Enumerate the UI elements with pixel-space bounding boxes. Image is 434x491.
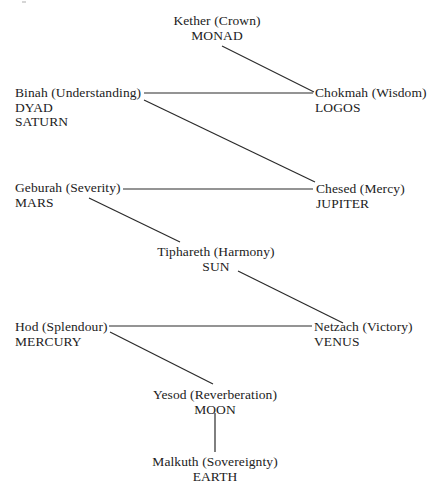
node-kether: Kether (Crown)MONAD — [173, 14, 260, 43]
node-attribute: JUPITER — [316, 197, 405, 212]
node-title: Chokmah (Wisdom) — [315, 86, 427, 101]
node-title: Yesod (Reverberation) — [153, 388, 277, 403]
node-attribute: SATURN — [15, 115, 141, 130]
edge-binah-chesed — [144, 100, 315, 182]
node-attribute: LOGOS — [315, 101, 427, 116]
node-binah: Binah (Understanding)DYADSATURN — [15, 86, 141, 130]
node-title: Netzach (Victory) — [314, 320, 413, 335]
node-attribute: MONAD — [173, 29, 260, 44]
edge-tiphareth-netzach — [238, 271, 343, 323]
node-malkuth: Malkuth (Sovereignty)EARTH — [152, 455, 277, 484]
node-title: Chesed (Mercy) — [316, 182, 405, 197]
node-title: Geburah (Severity) — [15, 181, 121, 196]
node-attribute: VENUS — [314, 335, 413, 350]
node-yesod: Yesod (Reverberation)MOON — [153, 388, 277, 417]
edge-kether-chokmah — [222, 46, 314, 92]
node-title: Binah (Understanding) — [15, 86, 141, 101]
node-title: Hod (Splendour) — [15, 320, 108, 335]
edge-hod-yesod — [110, 332, 213, 384]
node-attribute: SUN — [157, 260, 274, 275]
node-title: Malkuth (Sovereignty) — [152, 455, 277, 470]
node-title: Tiphareth (Harmony) — [157, 245, 274, 260]
node-hod: Hod (Splendour)MERCURY — [15, 320, 108, 349]
node-chokmah: Chokmah (Wisdom)LOGOS — [315, 86, 427, 115]
node-chesed: Chesed (Mercy)JUPITER — [316, 182, 405, 211]
node-title: Kether (Crown) — [173, 14, 260, 29]
node-attribute: DYAD — [15, 101, 141, 116]
node-geburah: Geburah (Severity)MARS — [15, 181, 121, 210]
node-attribute: EARTH — [152, 470, 277, 485]
node-attribute: MERCURY — [15, 335, 108, 350]
node-tiphareth: Tiphareth (Harmony)SUN — [157, 245, 274, 274]
node-attribute: MARS — [15, 196, 121, 211]
node-attribute: MOON — [153, 403, 277, 418]
node-netzach: Netzach (Victory)VENUS — [314, 320, 413, 349]
